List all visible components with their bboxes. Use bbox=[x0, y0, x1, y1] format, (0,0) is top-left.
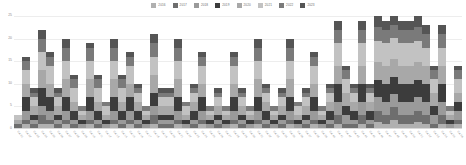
x-axis-tick: Cat 15 bbox=[126, 130, 134, 165]
bar-column[interactable] bbox=[206, 16, 213, 129]
bar-column[interactable] bbox=[62, 16, 69, 129]
bar-column[interactable] bbox=[70, 16, 77, 129]
bar-column[interactable] bbox=[438, 16, 445, 129]
bar-column[interactable] bbox=[302, 16, 309, 129]
x-axis-tick: Cat 13 bbox=[110, 130, 118, 165]
bar-column[interactable] bbox=[102, 16, 109, 129]
bar-column[interactable] bbox=[166, 16, 173, 129]
bar-column[interactable] bbox=[246, 16, 253, 129]
bar-segment bbox=[230, 97, 237, 111]
bar-column[interactable] bbox=[38, 16, 45, 129]
bar-segment bbox=[366, 93, 373, 102]
x-axis-tick: Cat 18 bbox=[150, 130, 158, 165]
bar-column[interactable] bbox=[118, 16, 125, 129]
bar-column[interactable] bbox=[174, 16, 181, 129]
x-axis-tick: Cat 36 bbox=[294, 130, 302, 165]
legend-item-2017[interactable]: 2017 bbox=[173, 3, 187, 8]
bar-column[interactable] bbox=[446, 16, 453, 129]
bar-column[interactable] bbox=[134, 16, 141, 129]
bar-column[interactable] bbox=[78, 16, 85, 129]
bar-column[interactable] bbox=[142, 16, 149, 129]
bar-column[interactable] bbox=[358, 16, 365, 129]
bar-column[interactable] bbox=[110, 16, 117, 129]
bar-column[interactable] bbox=[430, 16, 437, 129]
bar-column[interactable] bbox=[150, 16, 157, 129]
bar-segment bbox=[334, 43, 341, 66]
bar-column[interactable] bbox=[214, 16, 221, 129]
bar-column[interactable] bbox=[294, 16, 301, 129]
legend-item-2018[interactable]: 2018 bbox=[194, 3, 208, 8]
legend-item-2023[interactable]: 2023 bbox=[300, 3, 314, 8]
x-axis-tick: Cat 33 bbox=[270, 130, 278, 165]
bar-column[interactable] bbox=[286, 16, 293, 129]
bar-segment bbox=[310, 66, 317, 84]
bar-column[interactable] bbox=[86, 16, 93, 129]
bar-column[interactable] bbox=[94, 16, 101, 129]
bar-column[interactable] bbox=[222, 16, 229, 129]
bar-segment bbox=[46, 111, 53, 120]
bar-segment bbox=[454, 102, 461, 111]
bar-segment bbox=[414, 62, 421, 80]
bar-column[interactable] bbox=[230, 16, 237, 129]
bar-segment bbox=[374, 27, 381, 41]
bar-column[interactable] bbox=[374, 16, 381, 129]
x-axis-tick: Cat 16 bbox=[134, 130, 142, 165]
bar-segment bbox=[438, 66, 445, 84]
bar-segment bbox=[22, 111, 29, 120]
bar-column[interactable] bbox=[414, 16, 421, 129]
bar-column[interactable] bbox=[278, 16, 285, 129]
bar-column[interactable] bbox=[198, 16, 205, 129]
bar-segment bbox=[358, 84, 365, 102]
bar-segment bbox=[366, 102, 373, 111]
bar-segment bbox=[430, 106, 437, 115]
bar-column[interactable] bbox=[238, 16, 245, 129]
bar-column[interactable] bbox=[398, 16, 405, 129]
bar-segment bbox=[150, 43, 157, 57]
bar-column[interactable] bbox=[422, 16, 429, 129]
bar-column[interactable] bbox=[334, 16, 341, 129]
bar-segment bbox=[334, 115, 341, 124]
legend-item-2021[interactable]: 2021 bbox=[258, 3, 272, 8]
legend-item-2016[interactable]: 2016 bbox=[151, 3, 165, 8]
bar-column[interactable] bbox=[318, 16, 325, 129]
bar-segment bbox=[406, 84, 413, 102]
x-axis-tick: Cat 44 bbox=[358, 130, 366, 165]
bar-column[interactable] bbox=[366, 16, 373, 129]
legend-swatch-icon bbox=[173, 3, 178, 8]
legend-item-2022[interactable]: 2022 bbox=[279, 3, 293, 8]
bar-segment bbox=[310, 57, 317, 66]
bar-column[interactable] bbox=[46, 16, 53, 129]
bar-column[interactable] bbox=[254, 16, 261, 129]
bar-column[interactable] bbox=[454, 16, 461, 129]
x-axis-tick: Cat 26 bbox=[214, 130, 222, 165]
bar-segment bbox=[438, 34, 445, 48]
bar-column[interactable] bbox=[406, 16, 413, 129]
y-axis-tick-label: 5 bbox=[10, 105, 12, 108]
bar-segment bbox=[174, 79, 181, 97]
bar-column[interactable] bbox=[326, 16, 333, 129]
bar-segment bbox=[454, 111, 461, 120]
bar-column[interactable] bbox=[390, 16, 397, 129]
x-axis-tick: Cat 49 bbox=[398, 130, 406, 165]
x-axis-tick: Cat 31 bbox=[254, 130, 262, 165]
bar-segment bbox=[150, 93, 157, 107]
bar-column[interactable] bbox=[382, 16, 389, 129]
bar-column[interactable] bbox=[14, 16, 21, 129]
bar-column[interactable] bbox=[310, 16, 317, 129]
bar-column[interactable] bbox=[350, 16, 357, 129]
bar-column[interactable] bbox=[182, 16, 189, 129]
bar-column[interactable] bbox=[22, 16, 29, 129]
bar-column[interactable] bbox=[126, 16, 133, 129]
legend-item-2020[interactable]: 2020 bbox=[237, 3, 251, 8]
bar-column[interactable] bbox=[342, 16, 349, 129]
bar-column[interactable] bbox=[190, 16, 197, 129]
bar-segment bbox=[38, 39, 45, 53]
bar-segment bbox=[422, 66, 429, 84]
bar-column[interactable] bbox=[30, 16, 37, 129]
bar-column[interactable] bbox=[270, 16, 277, 129]
bar-segment bbox=[454, 79, 461, 93]
legend-item-2019[interactable]: 2019 bbox=[215, 3, 229, 8]
bar-column[interactable] bbox=[158, 16, 165, 129]
bar-column[interactable] bbox=[54, 16, 61, 129]
bar-column[interactable] bbox=[262, 16, 269, 129]
